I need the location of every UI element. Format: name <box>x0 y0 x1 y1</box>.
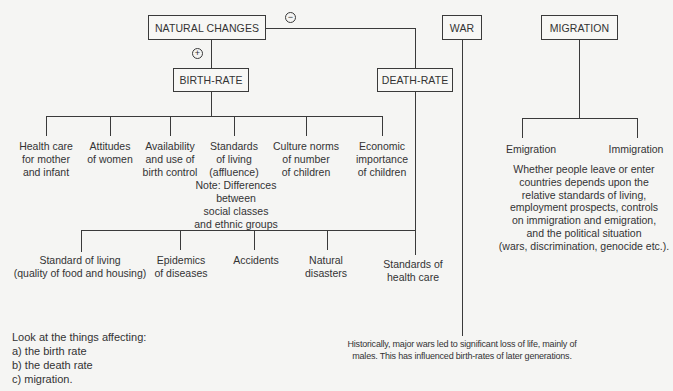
connector-birth-drop <box>46 116 47 136</box>
migration-immigration: Immigration <box>609 143 664 156</box>
connector-natural-to-birth <box>211 40 212 68</box>
connector-migration-drop <box>637 118 638 138</box>
birth-factor-economic: Economic importance of children <box>356 140 408 179</box>
connector-birth-drop <box>234 116 235 136</box>
connector-migration-bar <box>522 118 638 119</box>
node-migration: MIGRATION <box>541 15 618 40</box>
connector-birth-bar <box>46 116 383 117</box>
node-birth-rate: BIRTH-RATE <box>173 68 249 92</box>
connector-death-drop <box>327 230 328 250</box>
task-instructions: Look at the things affecting: a) the bir… <box>12 330 146 386</box>
birth-factor-standards-of-living: Standards of living (affluence) <box>209 140 258 179</box>
war-note: Historically, major wars led to signific… <box>347 339 576 362</box>
connector-death-drop <box>81 230 82 252</box>
connector-migration-trunk <box>579 40 580 118</box>
connector-natural-to-death-h <box>266 28 416 29</box>
task-intro: Look at the things affecting: <box>12 330 146 344</box>
connector-birth-drop <box>306 116 307 136</box>
node-war: WAR <box>442 15 482 40</box>
birth-factor-birth-control: Availability and use of birth control <box>143 140 198 179</box>
birth-note: Note: Differences between social classes… <box>194 179 277 231</box>
node-natural-changes: NATURAL CHANGES <box>148 15 266 40</box>
connector-birth-drop <box>170 116 171 136</box>
connector-death-drop <box>180 230 181 250</box>
minus-sign-icon: − <box>285 12 296 23</box>
death-factor-accidents: Accidents <box>233 254 279 267</box>
connector-natural-to-death-v <box>415 28 416 68</box>
connector-birth-trunk <box>211 92 212 116</box>
connector-migration-drop <box>522 118 523 138</box>
connector-birth-drop <box>110 116 111 136</box>
migration-emigration: Emigration <box>506 143 556 156</box>
birth-factor-health-care: Health care for mother and infant <box>19 140 73 179</box>
death-factor-health-care: Standards of health care <box>383 258 443 284</box>
death-factor-standard-of-living: Standard of living (quality of food and … <box>14 254 147 280</box>
connector-birth-drop <box>382 116 383 136</box>
connector-death-bar <box>81 230 416 231</box>
connector-death-drop <box>254 230 255 250</box>
node-death-rate: DEATH-RATE <box>377 68 453 92</box>
task-item: b) the death rate <box>12 358 146 372</box>
migration-note: Whether people leave or enter countries … <box>499 163 669 253</box>
plus-sign-icon: + <box>192 48 203 59</box>
death-factor-natural-disasters: Natural disasters <box>305 254 347 280</box>
birth-factor-culture-norms: Culture norms of number of children <box>273 140 339 179</box>
connector-war <box>462 40 463 336</box>
death-factor-epidemics: Epidemics of diseases <box>154 254 207 280</box>
birth-factor-attitudes: Attitudes of women <box>87 140 133 166</box>
task-item: a) the birth rate <box>12 344 146 358</box>
task-item: c) migration. <box>12 372 146 386</box>
